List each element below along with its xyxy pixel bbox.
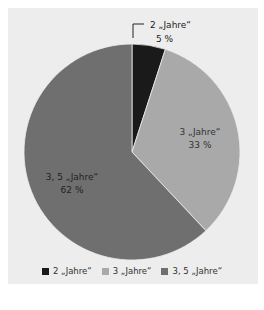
legend-label: 3 „Jahre“ bbox=[113, 266, 152, 276]
label-2-value: 5 % bbox=[156, 34, 174, 44]
label-3-name: 3 „Jahre“ bbox=[179, 127, 220, 137]
legend-item-3-jahre: 3 „Jahre“ bbox=[102, 266, 152, 276]
legend-swatch bbox=[42, 268, 49, 275]
pie-chart: 2 „Jahre“ 5 % 3 „Jahre“ 33 % 3, 5 „Jahre… bbox=[0, 0, 264, 310]
label-2-name: 2 „Jahre“ bbox=[150, 20, 191, 30]
label-35-name: 3, 5 „Jahre“ bbox=[46, 172, 98, 182]
legend-item-2-jahre: 2 „Jahre“ bbox=[42, 266, 92, 276]
legend-swatch bbox=[102, 268, 109, 275]
legend-swatch bbox=[161, 268, 168, 275]
legend-label: 2 „Jahre“ bbox=[53, 266, 92, 276]
label-35-value: 62 % bbox=[61, 185, 84, 195]
label-3-value: 33 % bbox=[189, 140, 212, 150]
legend: 2 „Jahre“ 3 „Jahre“ 3, 5 „Jahre“ bbox=[0, 266, 264, 276]
legend-item-35-jahre: 3, 5 „Jahre“ bbox=[161, 266, 222, 276]
legend-label: 3, 5 „Jahre“ bbox=[172, 266, 222, 276]
leader-line bbox=[133, 24, 144, 38]
